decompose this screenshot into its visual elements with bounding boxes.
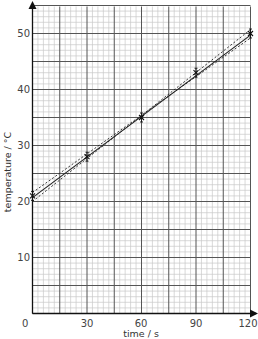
x-tick-120: 120	[238, 318, 257, 329]
y-tick-40: 40	[17, 84, 30, 95]
y-tick-50: 50	[17, 28, 30, 39]
x-axis-arrow-icon	[250, 310, 258, 318]
y-tick-20: 20	[17, 196, 30, 207]
y-axis-label: temperature / °C	[2, 131, 13, 212]
y-tick-10: 10	[17, 252, 30, 263]
y-tick-30: 30	[17, 140, 30, 151]
x-axis-label: time / s	[123, 328, 159, 339]
origin-label: 0	[22, 318, 28, 329]
x-tick-90: 90	[190, 318, 203, 329]
x-tick-30: 30	[81, 318, 94, 329]
tick-labels: 0 30 60 90 120 10 20 30 40 50	[17, 28, 257, 329]
temperature-time-chart: 0 30 60 90 120 10 20 30 40 50 time / s t…	[0, 0, 258, 339]
